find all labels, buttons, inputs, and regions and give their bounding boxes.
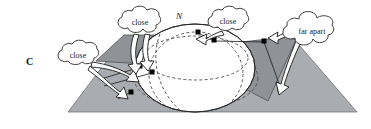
- cloud-close-right[interactable]: [208, 6, 249, 31]
- figure-canvas: C N close close close far apart: [0, 0, 371, 129]
- cloud-close-upper[interactable]: [118, 6, 161, 32]
- diagram-svg: [0, 0, 371, 129]
- sphere: [135, 24, 255, 112]
- cloud-close-left[interactable]: [58, 40, 99, 65]
